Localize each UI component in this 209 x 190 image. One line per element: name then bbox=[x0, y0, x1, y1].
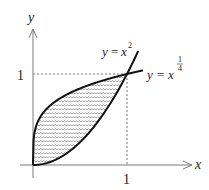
label-x-quarter: y = x 1 4 bbox=[145, 55, 183, 82]
area-between-curves-diagram: y x 1 1 y = x 2 y = x 1 4 bbox=[0, 0, 209, 190]
svg-text:=: = bbox=[157, 67, 164, 82]
x-axis-label: x bbox=[194, 157, 202, 172]
svg-text:=: = bbox=[111, 44, 118, 59]
svg-text:2: 2 bbox=[128, 41, 132, 50]
svg-text:4: 4 bbox=[178, 64, 182, 73]
svg-text:x: x bbox=[120, 44, 127, 59]
y-axis-label: y bbox=[26, 10, 35, 25]
y-tick-label-1: 1 bbox=[17, 68, 24, 83]
svg-text:y: y bbox=[100, 44, 108, 59]
svg-text:x: x bbox=[167, 67, 174, 82]
x-tick-label-1: 1 bbox=[123, 172, 130, 187]
svg-text:1: 1 bbox=[178, 55, 182, 64]
svg-text:y: y bbox=[145, 67, 153, 82]
label-x-squared: y = x 2 bbox=[100, 41, 132, 59]
